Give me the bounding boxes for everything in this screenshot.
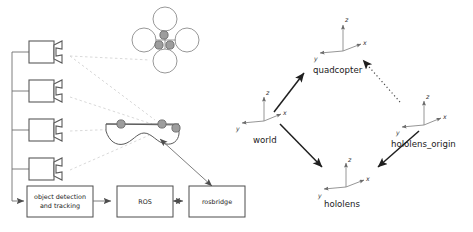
frame-hololens-z-label: z — [347, 156, 352, 163]
frame-hololens-name: hololens — [324, 199, 360, 209]
frame-quadcopter-x-label: x — [362, 39, 367, 46]
rosbridge-box-label: rosbridge — [202, 198, 232, 206]
frame-world-x-label: x — [282, 109, 287, 116]
frame-hololens-x-label: x — [365, 175, 370, 182]
frame-quadcopter-name: quadcopter — [313, 65, 363, 75]
rosbridge-box: rosbridge — [189, 186, 245, 217]
frame-quadcopter-z-label: z — [344, 16, 349, 23]
camera-3 — [29, 119, 62, 141]
diagram-svg: object detection and tracking ROS rosbri… — [0, 0, 473, 232]
frame-world-name: world — [253, 135, 277, 145]
edge-hololens-origin-quadcopter — [363, 60, 400, 102]
frame-hololens-origin-name: hololens_origin — [391, 139, 456, 149]
camera-bus-line — [12, 52, 29, 201]
frame-world-y-label: y — [235, 125, 240, 133]
edge-hololens-origin-hololens — [378, 131, 419, 167]
ros-box-label: ROS — [138, 198, 152, 206]
camera-1 — [29, 41, 62, 63]
frame-edges — [274, 60, 419, 167]
object-detection-box: object detection and tracking — [27, 186, 93, 217]
edge-world-hololens — [280, 124, 322, 167]
camera-4 — [29, 158, 62, 180]
edge-world-quadcopter — [274, 73, 304, 112]
quadcopter-drawing — [132, 7, 199, 73]
camera-sightlines — [70, 56, 155, 170]
object-detection-box-line1: object detection — [34, 193, 86, 201]
frame-hololens: z x y hololens — [317, 156, 370, 209]
frame-world-z-label: z — [265, 89, 270, 96]
frame-quadcopter: z x y quadcopter — [313, 16, 367, 75]
frame-hololens-origin-x-label: x — [442, 113, 447, 120]
frame-hololens-y-label: y — [317, 192, 322, 200]
rosbridge-hololens-link — [160, 139, 212, 186]
object-detection-box-line2: and tracking — [40, 202, 80, 210]
camera-2 — [29, 80, 62, 102]
figure-canvas: object detection and tracking ROS rosbri… — [0, 0, 473, 232]
frame-hololens-origin-z-label: z — [425, 93, 430, 100]
frame-hololens-origin-y-label: y — [395, 129, 400, 137]
ros-box: ROS — [117, 186, 173, 217]
frame-quadcopter-y-label: y — [313, 55, 318, 63]
hololens-drawing — [106, 120, 180, 145]
frame-hololens-origin: z x y hololens_origin — [391, 93, 456, 149]
frame-world: z x y world — [235, 89, 287, 145]
